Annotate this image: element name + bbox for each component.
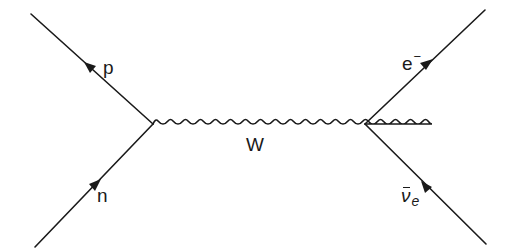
w-boson-label-text: W — [246, 134, 264, 155]
antineutrino-label-base: ν — [401, 186, 411, 205]
w-boson-label: W — [246, 135, 264, 154]
proton-label: p — [103, 58, 114, 77]
w-boson-propagator — [153, 120, 432, 125]
electron-label-charge: − — [414, 49, 422, 64]
neutron-label-text: n — [97, 185, 108, 206]
neutron-label: n — [97, 186, 108, 205]
antineutrino-label-flavor: e — [412, 193, 420, 209]
antineutrino-arrow-icon — [421, 181, 432, 193]
electron-label-base: e — [402, 53, 413, 74]
proton-label-text: p — [103, 57, 114, 78]
feynman-diagram — [0, 0, 511, 251]
electron-arrow-icon — [420, 59, 433, 70]
electron-label: e− — [402, 50, 421, 73]
antineutrino-label: νe — [401, 186, 419, 208]
